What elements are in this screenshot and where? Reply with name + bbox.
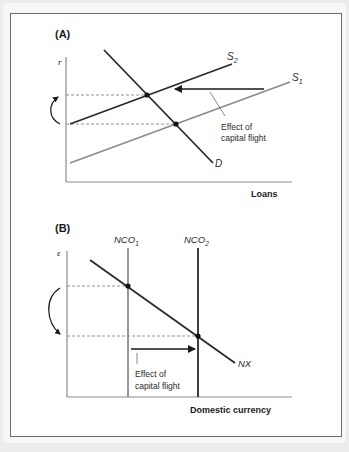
- label-s1: S1: [292, 72, 303, 85]
- annotation-a-line1: Effect of: [221, 122, 253, 132]
- panel-b: (B) ε Effect of capital flight NCO1 NCO2…: [49, 222, 292, 415]
- capital-flight-diagram: (A) r Effect of capital flight S2 S1 D L…: [0, 0, 349, 452]
- panel-b-label: (B): [55, 222, 71, 234]
- equilibrium-point-old: [173, 121, 178, 126]
- label-nx: NX: [238, 358, 252, 369]
- panel-a-label: (A): [55, 28, 71, 40]
- exchange-rate-fall-arrow-icon: [49, 288, 60, 334]
- equilibrium-point-new: [144, 92, 149, 97]
- label-nco2: NCO2: [184, 234, 209, 247]
- y-axis-label-r: r: [58, 57, 62, 67]
- panel-a: (A) r Effect of capital flight S2 S1 D L…: [51, 28, 303, 199]
- equilibrium-point-new: [195, 333, 200, 338]
- supply-curve-s2: [70, 64, 232, 124]
- label-nco1: NCO1: [114, 234, 139, 247]
- x-axis-label-loans: Loans: [251, 189, 278, 199]
- annotation-a-line2: capital flight: [221, 133, 267, 143]
- rate-rise-arrow-icon: [51, 97, 60, 124]
- y-axis-label-epsilon: ε: [57, 248, 61, 258]
- nx-curve: [90, 260, 235, 363]
- annotation-b-line1: Effect of: [135, 369, 167, 379]
- annotation-b-line2: capital flight: [135, 381, 181, 391]
- label-s2: S2: [227, 51, 238, 64]
- x-axis-label-domestic-currency: Domestic currency: [190, 405, 271, 415]
- equilibrium-point-old: [125, 283, 130, 288]
- annotation-leader-a: [210, 92, 225, 116]
- supply-curve-s1: [70, 82, 290, 163]
- demand-curve-d: [104, 50, 213, 163]
- label-d: D: [215, 158, 222, 169]
